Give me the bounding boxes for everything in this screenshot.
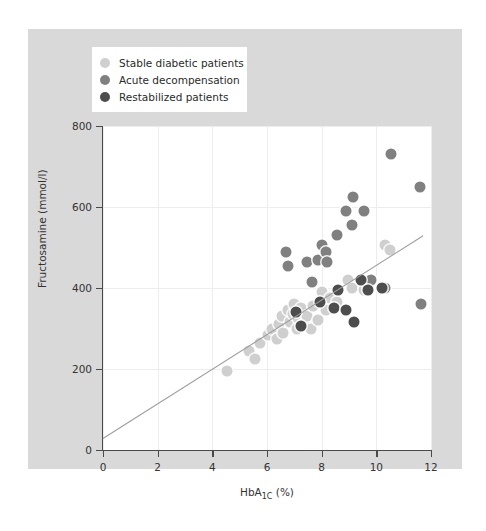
legend-marker-restabilized-icon xyxy=(100,92,110,102)
gridline-vertical xyxy=(431,126,432,450)
y-axis-tick-label: 800 xyxy=(72,120,92,132)
legend-marker-stable-icon xyxy=(100,58,110,68)
data-point-restabilized xyxy=(341,305,352,316)
y-axis-tick xyxy=(96,207,102,208)
legend-item-restabilized: Restabilized patients xyxy=(100,88,237,105)
y-axis-tick xyxy=(96,288,102,289)
data-point-acute xyxy=(331,230,342,241)
data-point-stable xyxy=(249,353,260,364)
x-axis-tick-label: 0 xyxy=(100,461,107,473)
x-axis-tick xyxy=(322,451,323,457)
data-point-acute xyxy=(322,256,333,267)
data-point-acute xyxy=(341,206,352,217)
legend-label-stable: Stable diabetic patients xyxy=(119,57,244,69)
y-axis-tick-label: 0 xyxy=(85,444,92,456)
data-point-stable xyxy=(312,315,323,326)
gridline-horizontal xyxy=(103,369,431,370)
x-axis-tick-label: 12 xyxy=(424,461,437,473)
legend-item-stable: Stable diabetic patients xyxy=(100,54,237,71)
figure-root: Fructosamine (mmol/l) HbA1C (%) Stable d… xyxy=(0,0,486,531)
data-point-stable xyxy=(222,366,233,377)
data-point-restabilized xyxy=(296,321,307,332)
data-point-acute xyxy=(301,256,312,267)
y-axis-tick-label: 600 xyxy=(72,201,92,213)
data-point-restabilized xyxy=(363,285,374,296)
data-point-stable xyxy=(278,327,289,338)
data-point-restabilized xyxy=(349,317,360,328)
x-axis-tick-label: 2 xyxy=(154,461,161,473)
data-point-acute xyxy=(307,276,318,287)
x-axis-tick-label: 6 xyxy=(264,461,271,473)
legend-label-acute: Acute decompensation xyxy=(119,74,240,86)
x-axis-tick-label: 4 xyxy=(209,461,216,473)
legend: Stable diabetic patients Acute decompens… xyxy=(92,47,247,112)
data-point-acute xyxy=(415,181,426,192)
data-point-restabilized xyxy=(376,283,387,294)
x-axis-tick xyxy=(212,451,213,457)
x-axis-tick xyxy=(267,451,268,457)
x-axis-tick-label: 10 xyxy=(370,461,383,473)
y-axis-spine xyxy=(102,126,103,451)
x-axis-title-base: HbA xyxy=(240,486,262,498)
gridline-horizontal xyxy=(103,126,431,127)
y-axis-tick xyxy=(96,126,102,127)
legend-label-restabilized: Restabilized patients xyxy=(119,91,229,103)
data-point-acute xyxy=(386,149,397,160)
legend-marker-acute-icon xyxy=(100,75,110,85)
data-point-acute xyxy=(282,260,293,271)
x-axis-title-subscript: 1C xyxy=(262,492,273,501)
y-axis-tick-label: 400 xyxy=(72,282,92,294)
x-axis-tick-label: 8 xyxy=(318,461,325,473)
data-point-restabilized xyxy=(328,303,339,314)
x-axis-tick xyxy=(158,451,159,457)
x-axis-tick xyxy=(376,451,377,457)
x-axis-tick xyxy=(431,451,432,457)
y-axis-title: Fructosamine (mmol/l) xyxy=(36,169,48,288)
x-axis-tick xyxy=(103,451,104,457)
data-point-acute xyxy=(416,299,427,310)
legend-item-acute: Acute decompensation xyxy=(100,71,237,88)
y-axis-tick-label: 200 xyxy=(72,363,92,375)
data-point-acute xyxy=(346,220,357,231)
y-axis-tick xyxy=(96,369,102,370)
x-axis-title: HbA1C (%) xyxy=(240,486,294,501)
y-axis-tick xyxy=(96,450,102,451)
gridline-horizontal xyxy=(103,207,431,208)
data-point-acute xyxy=(281,246,292,257)
plot-area xyxy=(103,126,431,450)
x-axis-title-unit: (%) xyxy=(272,486,294,498)
data-point-acute xyxy=(359,206,370,217)
data-point-acute xyxy=(348,191,359,202)
